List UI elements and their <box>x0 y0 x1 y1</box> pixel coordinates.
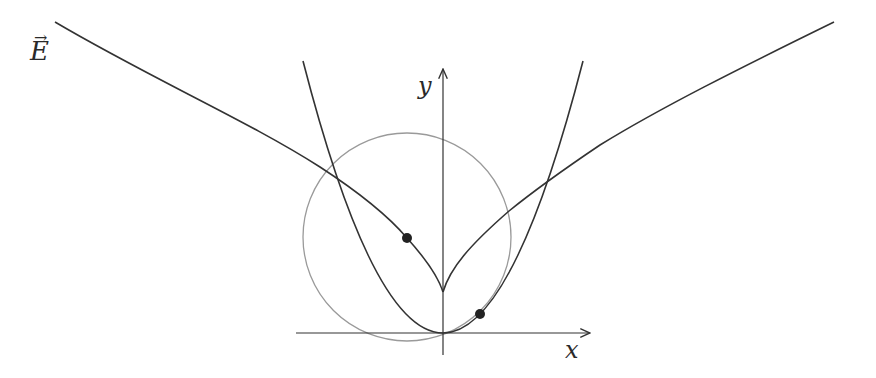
field-curve-right <box>443 22 834 292</box>
diagram-canvas <box>0 0 876 378</box>
vector-arrow-icon: → <box>34 30 47 46</box>
field-curve-left <box>55 22 443 292</box>
field-label: → E <box>30 38 49 64</box>
diagram: → E y x <box>0 0 876 378</box>
circle-center-point <box>402 233 412 243</box>
y-axis-label: y <box>418 74 432 98</box>
x-axis-label: x <box>565 338 579 362</box>
tangent-point <box>475 309 485 319</box>
